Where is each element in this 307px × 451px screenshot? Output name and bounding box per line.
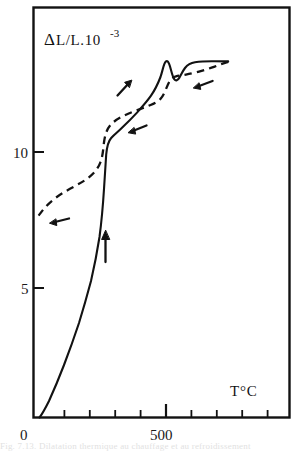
y-axis-label-delta: Δ bbox=[44, 30, 55, 49]
figure-caption-partial: Fig. 7.13. Dilatation thermique au chauf… bbox=[0, 441, 307, 451]
x-axis-label: T°C bbox=[230, 383, 258, 399]
y-axis-label-body: L/L.10 bbox=[56, 32, 101, 48]
plot-frame bbox=[34, 8, 290, 418]
y-tick-label-5: 5 bbox=[21, 281, 29, 297]
y-tick-label-10: 10 bbox=[13, 145, 28, 161]
y-axis-label-exponent: -3 bbox=[110, 27, 120, 39]
figure-root: Δ L/L.10 -3 T°C 10 5 0 500 Fig. 7.13. Di… bbox=[0, 0, 307, 451]
dilatometry-hysteresis-chart: Δ L/L.10 -3 T°C 10 5 0 500 bbox=[0, 0, 307, 451]
